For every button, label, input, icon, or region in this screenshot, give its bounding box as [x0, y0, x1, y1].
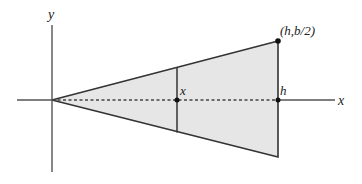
shaded-triangle: [52, 41, 278, 157]
apex-point: [275, 38, 281, 44]
height-point: [276, 98, 281, 103]
triangle-diagram: y x x h (h,b/2): [0, 0, 362, 184]
height-label: h: [280, 83, 287, 98]
apex-label: (h,b/2): [280, 23, 315, 38]
x-axis-label: x: [337, 93, 345, 108]
slice-point: [175, 98, 180, 103]
slice-position-label: x: [179, 83, 186, 98]
diagram-svg: y x x h (h,b/2): [0, 0, 362, 184]
y-axis-label: y: [46, 7, 55, 22]
